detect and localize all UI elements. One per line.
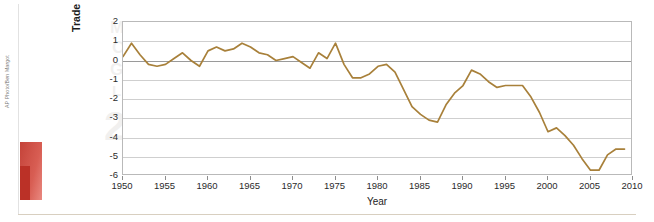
y-tick-label: 2 <box>94 16 118 26</box>
american-flag-photo <box>20 4 82 200</box>
left-divider <box>18 4 19 214</box>
x-tick-label: 1985 <box>400 180 440 191</box>
y-tick-label: -5 <box>94 151 118 161</box>
x-tick-label: 2010 <box>612 180 652 191</box>
y-tick-label: -1 <box>94 74 118 84</box>
x-tick-label: 1970 <box>272 180 312 191</box>
x-axis-ticks: 1950195519601965197019751980198519901995… <box>122 176 654 192</box>
y-tick-label: -4 <box>94 132 118 142</box>
x-tick-label: 1960 <box>187 180 227 191</box>
y-tick-label: 1 <box>94 35 118 45</box>
chart-figure: AP Photo/Ben Margot MORE OPEC GAS LINE 2… <box>0 0 654 222</box>
y-tick-label: -3 <box>94 112 118 122</box>
x-tick-label: 2005 <box>570 180 610 191</box>
y-tick-label: 0 <box>94 55 118 65</box>
x-tick-label: 1975 <box>315 180 355 191</box>
y-tick-label: -6 <box>94 170 118 180</box>
data-line <box>123 43 625 170</box>
x-tick-label: 1990 <box>442 180 482 191</box>
y-axis-label: Trade Deficit as a Percent of GDP <box>69 0 83 32</box>
x-tick-label: 1955 <box>145 180 185 191</box>
plot-area <box>122 21 632 175</box>
trade-deficit-series <box>123 22 633 176</box>
photo-credit: AP Photo/Ben Margot <box>1 12 13 108</box>
x-tick-label: 1995 <box>485 180 525 191</box>
bottom-divider <box>18 214 636 215</box>
x-tick-label: 1965 <box>230 180 270 191</box>
y-tick-label: -2 <box>94 93 118 103</box>
x-tick-label: 2000 <box>527 180 567 191</box>
x-axis-label: Year <box>122 196 632 207</box>
x-tick-label: 1950 <box>102 180 142 191</box>
flag-red-stripe-edge <box>20 166 30 200</box>
x-tick-label: 1980 <box>357 180 397 191</box>
